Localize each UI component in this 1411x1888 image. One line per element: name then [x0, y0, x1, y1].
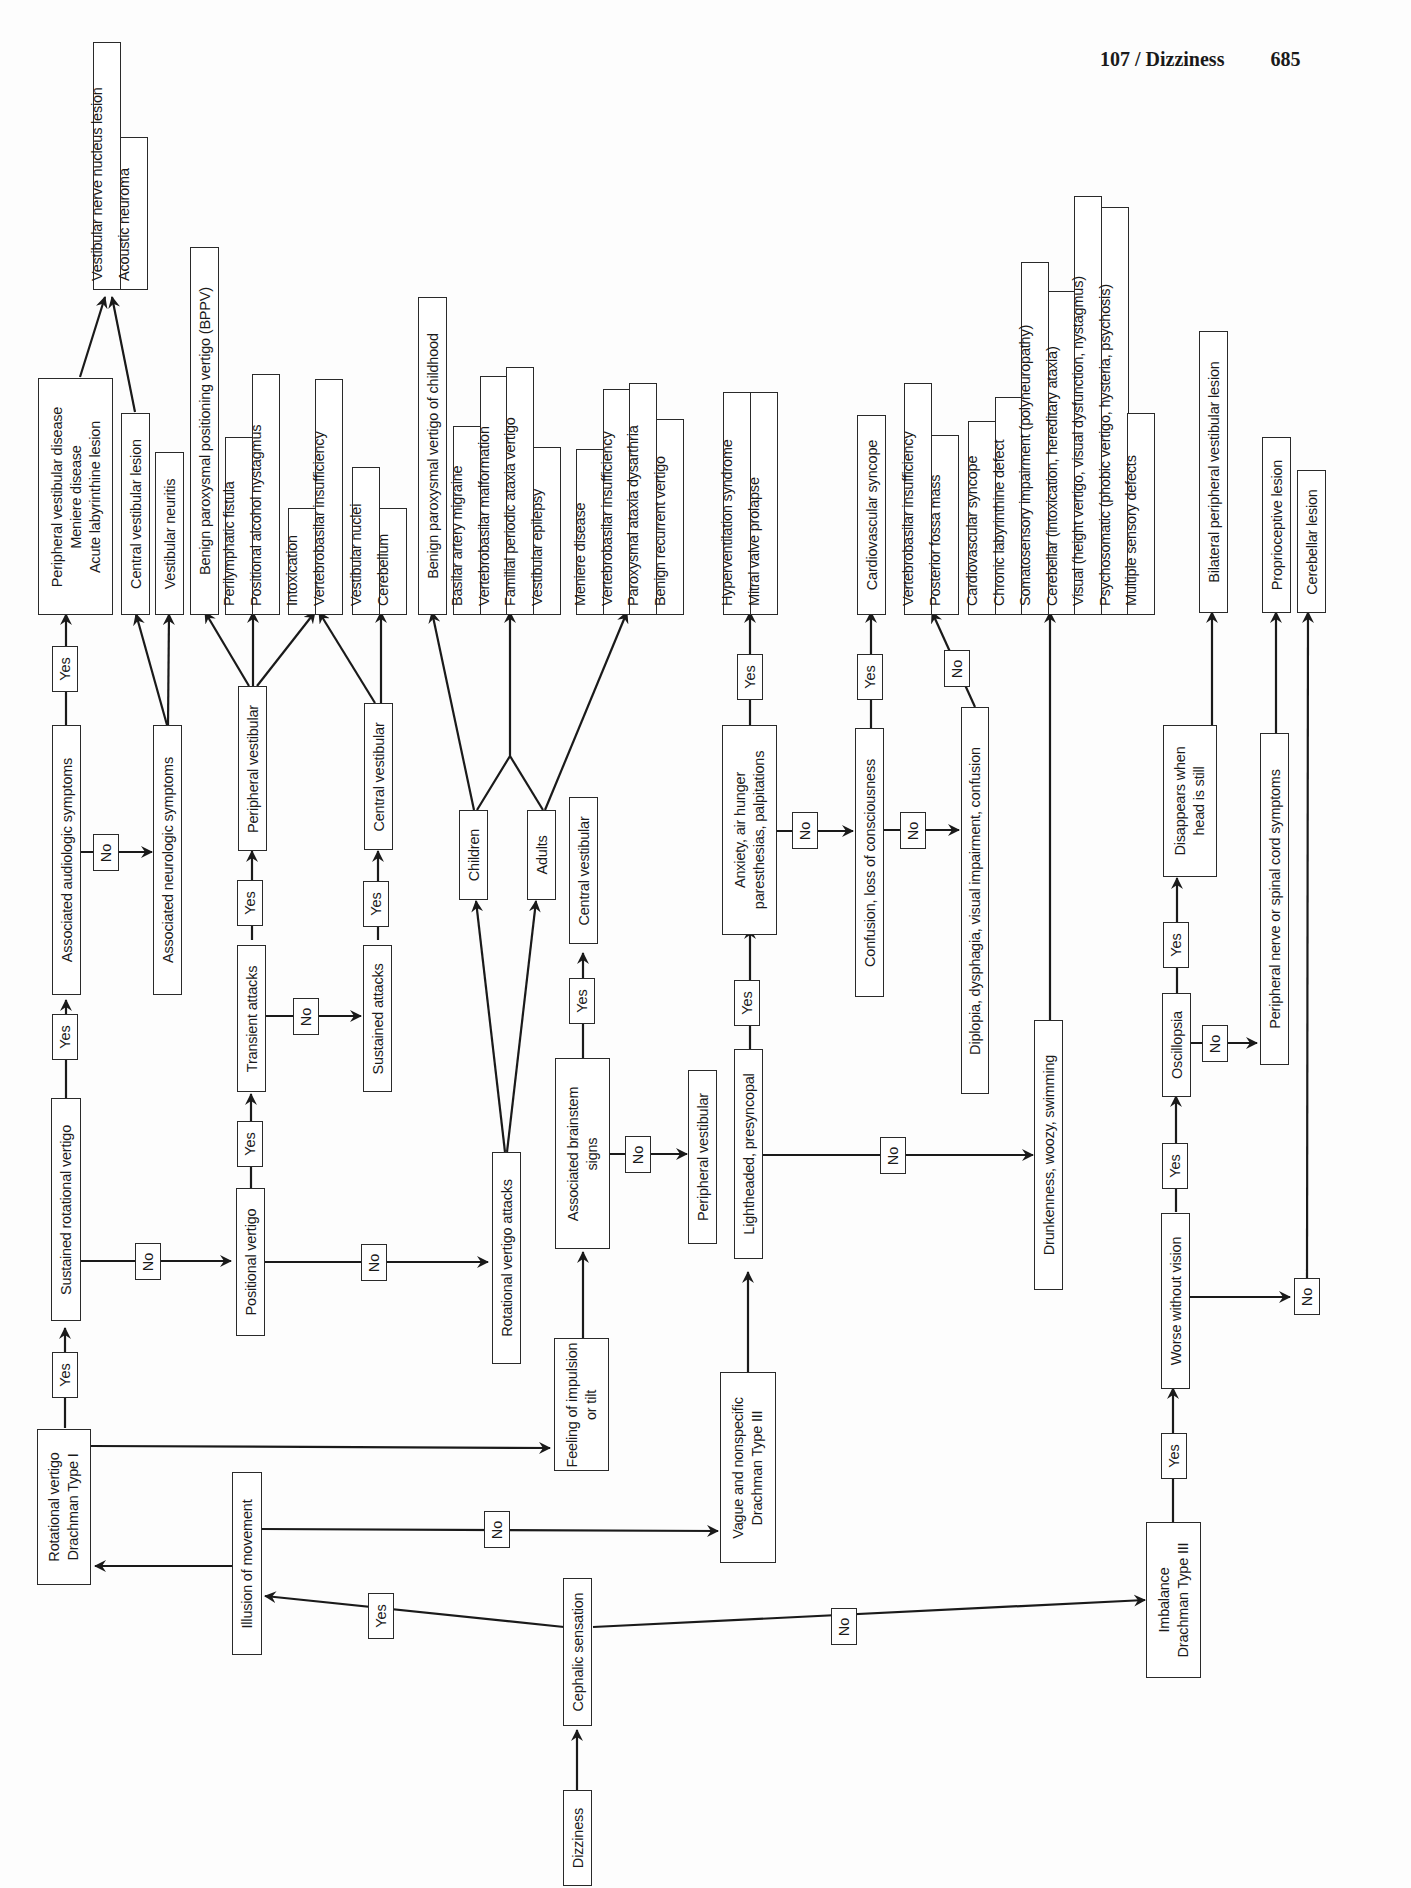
label-yes: Yes: [52, 1014, 78, 1060]
label-yes: Yes: [52, 1352, 78, 1398]
label-no: No: [880, 1137, 906, 1174]
node-sustained-attacks[interactable]: Sustained attacks: [363, 945, 392, 1092]
node-sustained-rotational-vertigo[interactable]: Sustained rotational vertigo: [51, 1098, 81, 1321]
node-positional-vertigo[interactable]: Positional vertigo: [236, 1188, 265, 1336]
node-rotational-vertigo-attacks[interactable]: Rotational vertigo attacks: [492, 1152, 521, 1364]
outcome-vertebrobasilar-insufficiency-1[interactable]: Vertebrobasilar insufficiency: [315, 379, 343, 615]
outcome-group-drunkenness: Cardiovascular syncope Chronic labyrinth…: [968, 196, 1155, 615]
label-yes: Yes: [237, 1121, 263, 1167]
node-adults[interactable]: Adults: [527, 810, 556, 900]
label-no: No: [93, 834, 119, 871]
label-yes: Yes: [1163, 922, 1189, 968]
outcome-group-hyperventilation: Hyperventilation syndrome Mitral valve p…: [723, 392, 778, 615]
node-rotational-vertigo-type-1[interactable]: Rotational vertigo Drachman Type I: [37, 1429, 91, 1585]
outcome-cerebellar-lesion[interactable]: Cerebellar lesion: [1297, 470, 1326, 613]
label-no: No: [625, 1136, 651, 1173]
label-yes: Yes: [734, 980, 760, 1026]
node-dizziness[interactable]: Dizziness: [563, 1790, 592, 1886]
outcome-group-intoxication: Intoxication Vertebrobasilar insufficien…: [288, 379, 343, 615]
node-vague-nonspecific[interactable]: Vague and nonspecific Drachman Type III: [720, 1372, 776, 1563]
node-peripheral-vestibular-1[interactable]: Peripheral vestibular: [238, 686, 267, 851]
node-imbalance[interactable]: Imbalance Drachman Type III: [1146, 1522, 1201, 1678]
label-yes: Yes: [1161, 1433, 1187, 1479]
outcome-vestibular-neuritis[interactable]: Vestibular neuritis: [155, 452, 184, 615]
label-no: No: [792, 812, 818, 849]
label-no: No: [1294, 1278, 1320, 1315]
outcome-group-children: Basilar artery migraine Vertebrobasilar …: [453, 367, 561, 615]
label-no: No: [293, 998, 319, 1035]
outcome-vestibular-epilepsy[interactable]: Vestibular epilepsy: [533, 447, 561, 615]
label-no: No: [484, 1511, 510, 1548]
outcome-group-adults: Meniere disease Vertebrobasilar insuffic…: [576, 383, 684, 615]
label-yes: Yes: [857, 654, 883, 700]
outcome-cerebellum[interactable]: Cerebellum: [379, 508, 407, 615]
outcome-bilateral-peripheral-vestibular[interactable]: Bilateral peripheral vestibular lesion: [1199, 331, 1228, 613]
outcome-multiple-sensory-defects[interactable]: Multiple sensory defects: [1127, 413, 1155, 615]
node-assoc-neurologic[interactable]: Associated neurologic symptoms: [153, 725, 182, 995]
outcome-posterior-fossa-mass[interactable]: Posterior fossa mass: [931, 435, 959, 615]
node-worse-without-vision[interactable]: Worse without vision: [1161, 1213, 1190, 1389]
outcome-positional-alcohol-nystagmus[interactable]: Positional alcohol nystagmus: [252, 374, 280, 615]
outcome-acoustic-neuroma[interactable]: Acoustic neuroma: [120, 137, 148, 290]
node-central-vestibular-2[interactable]: Central vestibular: [569, 797, 598, 944]
node-feeling-of-impulsion[interactable]: Feeling of impulsion or tilt: [554, 1338, 609, 1471]
node-transient-attacks[interactable]: Transient attacks: [237, 945, 266, 1092]
label-no: No: [944, 650, 970, 687]
outcome-benign-recurrent-vertigo[interactable]: Benign recurrent vertigo: [656, 419, 684, 615]
label-yes: Yes: [368, 1593, 394, 1639]
label-no: No: [1202, 1025, 1228, 1062]
outcome-group-vestibular-nerve: Vestibular nerve nucleus lesion Acoustic…: [93, 42, 148, 290]
outcome-mitral-valve-prolapse[interactable]: Mitral valve prolapse: [750, 392, 778, 615]
node-anxiety[interactable]: Anxiety, air hunger paresthesias, palpit…: [722, 725, 777, 935]
node-peripheral-nerve-spinal[interactable]: Peripheral nerve or spinal cord symptoms: [1260, 733, 1289, 1065]
label-no: No: [361, 1244, 387, 1281]
node-diplopia[interactable]: Diplopia, dysphagia, visual impairment, …: [961, 707, 989, 1094]
node-central-vestibular-1[interactable]: Central vestibular: [364, 703, 393, 850]
label-yes: Yes: [237, 880, 263, 926]
node-assoc-audiologic[interactable]: Associated audiologic symptoms: [52, 725, 81, 995]
node-lightheaded-presyncopal[interactable]: Lightheaded, presyncopal: [734, 1049, 763, 1259]
label-yes: Yes: [569, 978, 595, 1024]
label-yes: Yes: [1162, 1143, 1188, 1189]
node-illusion-of-movement[interactable]: Illusion of movement: [232, 1472, 262, 1655]
outcome-central-vestibular-lesion[interactable]: Central vestibular lesion: [121, 413, 150, 615]
outcome-cardiovascular-syncope-1[interactable]: Cardiovascular syncope: [857, 415, 886, 615]
outcome-group-perilymphatic: Perilymphatic fistula Positional alcohol…: [225, 374, 280, 615]
outcome-peripheral-vestibular-disease[interactable]: Peripheral vestibular disease Meniere di…: [38, 378, 113, 615]
node-peripheral-vestibular-2[interactable]: Peripheral vestibular: [688, 1070, 717, 1244]
label-yes: Yes: [363, 881, 389, 927]
node-oscillopsia[interactable]: Oscillopsia: [1162, 993, 1191, 1097]
node-disappears-when-still[interactable]: Disappears when head is still: [1163, 725, 1217, 877]
node-drunkenness[interactable]: Drunkenness, woozy, swimming: [1034, 1020, 1063, 1290]
node-cephalic-sensation[interactable]: Cephalic sensation: [563, 1578, 592, 1726]
label-yes: Yes: [52, 646, 78, 692]
node-confusion[interactable]: Confusion, loss of consciousness: [855, 728, 884, 997]
label-no: No: [831, 1608, 857, 1645]
label-no: No: [900, 812, 926, 849]
label-yes: Yes: [737, 654, 763, 700]
outcome-group-vestibular-nuclei: Vestibular nuclei Cerebellum: [352, 467, 407, 615]
node-assoc-brainstem-signs[interactable]: Associated brainstem signs: [555, 1058, 610, 1249]
node-children[interactable]: Children: [459, 810, 488, 900]
outcome-bpv-childhood[interactable]: Benign paroxysmal vertigo of childhood: [418, 297, 447, 615]
label-no: No: [135, 1243, 161, 1280]
outcome-bppv[interactable]: Benign paroxysmal positioning vertigo (B…: [190, 247, 219, 615]
outcome-proprioceptive-lesion[interactable]: Proprioceptive lesion: [1262, 437, 1291, 613]
outcome-group-vbi: Vertebrobasilar insufficiency Posterior …: [904, 383, 959, 615]
